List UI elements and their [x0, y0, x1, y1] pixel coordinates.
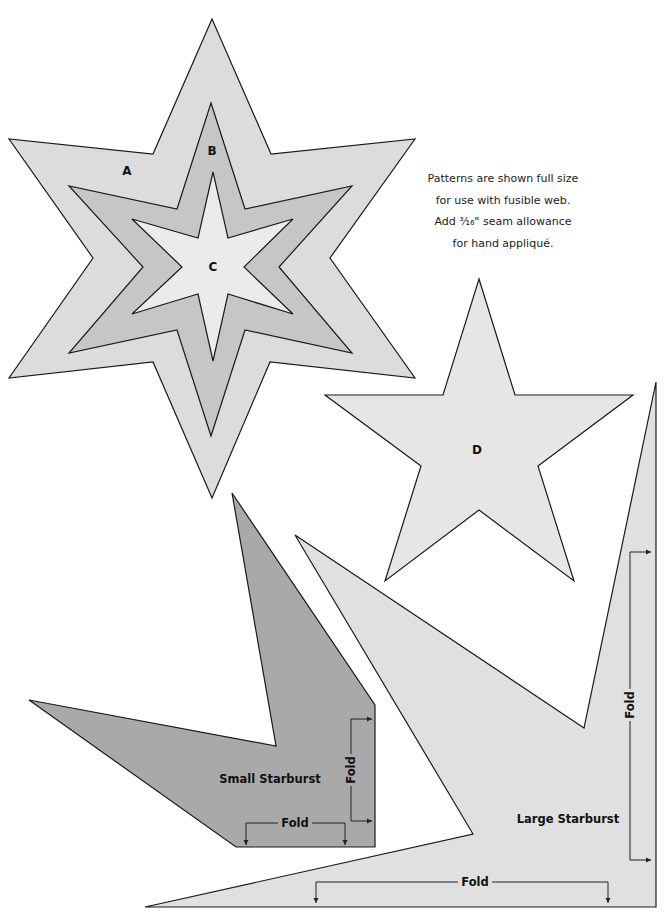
star-b-label: B: [207, 144, 216, 158]
pattern-drawing: ABCDLarge StarburstSmall Starburst FoldF…: [0, 0, 667, 913]
note-line-4: for hand appliqué.: [410, 233, 596, 255]
star-c-label: C: [209, 260, 218, 274]
note-line-2: for use with fusible web.: [410, 190, 596, 212]
fold-label: Fold: [623, 691, 637, 718]
small-starburst-label: Small Starburst: [219, 772, 321, 786]
star-d-label: D: [472, 443, 482, 457]
star-a-label: A: [122, 164, 132, 178]
large-starburst-label: Large Starburst: [517, 812, 620, 826]
pattern-sheet: ABCDLarge StarburstSmall Starburst FoldF…: [0, 0, 667, 913]
note-line-1: Patterns are shown full size: [410, 168, 596, 190]
fold-label: Fold: [461, 875, 488, 889]
fold-label: Fold: [281, 816, 308, 830]
small-starburst-shape: [29, 493, 375, 847]
shapes-layer: [9, 19, 656, 907]
note-line-3: Add ³⁄₁₆" seam allowance: [410, 211, 596, 233]
instruction-note: Patterns are shown full size for use wit…: [410, 168, 596, 254]
fold-label: Fold: [344, 756, 358, 783]
